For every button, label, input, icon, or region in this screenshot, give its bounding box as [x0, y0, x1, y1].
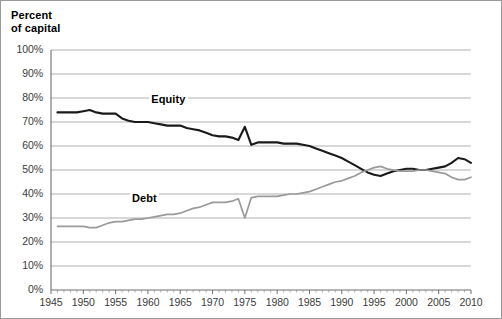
x-tick-label: 2010 [451, 296, 491, 308]
series-label-debt: Debt [130, 192, 159, 204]
y-tick-label: 0% [3, 283, 43, 295]
series-paths-group [57, 110, 471, 228]
y-tick-label: 30% [3, 211, 43, 223]
y-tick-label: 90% [3, 67, 43, 79]
y-tick-label: 20% [3, 235, 43, 247]
y-tick-label: 40% [3, 187, 43, 199]
chart-plot-area [1, 1, 502, 319]
y-tick-label: 10% [3, 259, 43, 271]
series-line-equity [57, 110, 471, 176]
y-tick-label: 70% [3, 115, 43, 127]
series-label-equity: Equity [149, 93, 187, 105]
y-tick-label: 80% [3, 91, 43, 103]
x-tick-marks-group [51, 290, 471, 294]
chart-figure: Percent of capital 100%90%80%70%60%50%40… [0, 0, 502, 319]
y-tick-label: 60% [3, 139, 43, 151]
y-tick-label: 50% [3, 163, 43, 175]
gridlines-group [51, 50, 471, 290]
y-tick-label: 100% [3, 43, 43, 55]
